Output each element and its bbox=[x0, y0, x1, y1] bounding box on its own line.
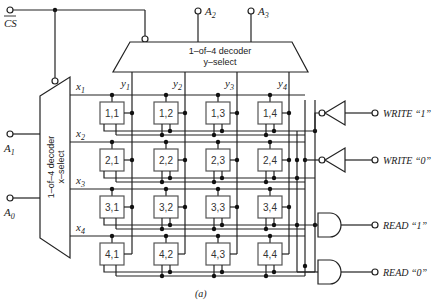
x-decoder-line1: 1–of–4 decoder bbox=[46, 136, 56, 199]
a1-input: A1 bbox=[3, 131, 40, 157]
svg-text:A0: A0 bbox=[3, 206, 15, 221]
svg-text:3,1: 3,1 bbox=[105, 202, 119, 213]
x-decoder: 1–of–4 decoder x–select bbox=[40, 77, 70, 258]
memory-array-diagram: CS A2 A3 1–of–4 decoder y–select 1–of–4 … bbox=[0, 0, 433, 305]
cs-label: CS bbox=[4, 17, 17, 29]
a2-input: A2 bbox=[195, 5, 216, 42]
y-decoder-line2: y–select bbox=[203, 57, 237, 67]
read1-label: READ “1” bbox=[382, 220, 428, 231]
bus-junctions bbox=[295, 129, 317, 268]
svg-text:1,4: 1,4 bbox=[263, 108, 277, 119]
svg-text:A2: A2 bbox=[204, 5, 216, 20]
svg-text:4,4: 4,4 bbox=[263, 249, 277, 260]
svg-text:1,2: 1,2 bbox=[159, 108, 173, 119]
svg-text:4,2: 4,2 bbox=[159, 249, 173, 260]
a0-input: A0 bbox=[3, 195, 40, 221]
svg-text:y4: y4 bbox=[277, 77, 287, 92]
write0-buffer: WRITE “0” bbox=[305, 148, 432, 172]
svg-text:y1: y1 bbox=[120, 77, 130, 92]
svg-text:x1: x1 bbox=[75, 80, 85, 95]
figure-caption: (a) bbox=[195, 288, 207, 300]
svg-text:A1: A1 bbox=[3, 142, 15, 157]
svg-text:x4: x4 bbox=[75, 221, 85, 236]
svg-text:y2: y2 bbox=[172, 77, 182, 92]
svg-text:1,1: 1,1 bbox=[105, 108, 119, 119]
svg-text:x2: x2 bbox=[75, 127, 85, 142]
svg-text:2,3: 2,3 bbox=[211, 155, 225, 166]
read0-gate: READ “0” bbox=[297, 260, 428, 284]
read1-gate: READ “1” bbox=[315, 213, 428, 237]
svg-text:3,2: 3,2 bbox=[159, 202, 173, 213]
svg-text:4,3: 4,3 bbox=[211, 249, 225, 260]
svg-text:3,4: 3,4 bbox=[263, 202, 277, 213]
svg-text:x3: x3 bbox=[75, 174, 85, 189]
svg-text:A3: A3 bbox=[257, 5, 269, 20]
svg-text:2,1: 2,1 bbox=[105, 155, 119, 166]
svg-text:4,1: 4,1 bbox=[105, 249, 119, 260]
read0-label: READ “0” bbox=[382, 267, 428, 278]
write1-label: WRITE “1” bbox=[383, 108, 432, 119]
y-decoder-line1: 1–of–4 decoder bbox=[189, 46, 252, 56]
svg-text:y3: y3 bbox=[224, 77, 234, 92]
svg-text:2,4: 2,4 bbox=[263, 155, 277, 166]
svg-text:3,3: 3,3 bbox=[211, 202, 225, 213]
write0-label: WRITE “0” bbox=[383, 155, 432, 166]
write1-buffer: WRITE “1” bbox=[315, 101, 432, 131]
y-decoder: 1–of–4 decoder y–select bbox=[113, 42, 308, 72]
svg-text:1,3: 1,3 bbox=[211, 108, 225, 119]
x-decoder-line2: x–select bbox=[56, 150, 66, 184]
a3-input: A3 bbox=[248, 5, 269, 42]
svg-text:2,2: 2,2 bbox=[159, 155, 173, 166]
